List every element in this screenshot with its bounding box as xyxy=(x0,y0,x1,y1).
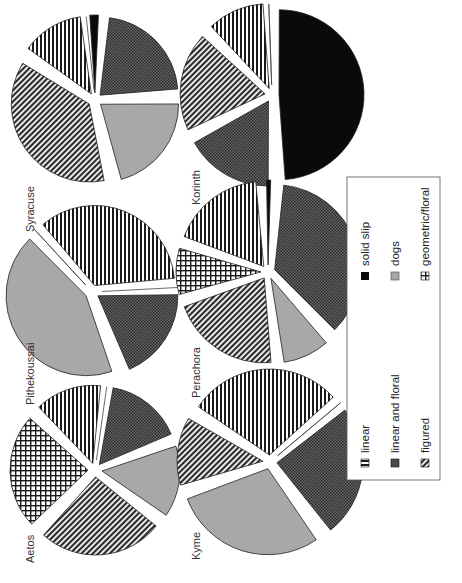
solid-slip-swatch-icon xyxy=(361,272,369,280)
pies-group xyxy=(6,4,364,555)
pie-chart-figure: Syracuse Pithekoussai Aetos Korinth Pera… xyxy=(0,0,462,583)
svg-text:dogs: dogs xyxy=(389,241,401,266)
label-korinth: Korinth xyxy=(190,170,202,205)
slice-solid-slip xyxy=(279,10,364,180)
pie-aetos xyxy=(10,385,180,555)
pie-perachora xyxy=(176,180,360,363)
pie-korinth xyxy=(180,4,364,186)
zero-slice-line xyxy=(269,4,272,85)
svg-text:solid slip: solid slip xyxy=(359,222,371,266)
slice-linear-and-floral xyxy=(98,295,178,370)
dogs-swatch-icon xyxy=(391,272,399,280)
slice-solid-slip xyxy=(90,15,99,93)
slice-linear-and-floral xyxy=(100,18,178,95)
label-kyme: Kyme xyxy=(190,532,202,560)
linear-and-floral-swatch-icon xyxy=(391,459,399,467)
label-aetos: Aetos xyxy=(24,534,36,563)
geometric-floral-swatch-icon xyxy=(421,272,429,280)
legend-item-figured: figured xyxy=(419,418,431,467)
slice-dogs xyxy=(101,104,179,179)
legend-item-linear-and-floral: linear and floral xyxy=(389,374,401,467)
slice-figured xyxy=(11,63,104,182)
pie-kyme xyxy=(177,369,363,555)
legend: linear linear and floral figured solid s… xyxy=(347,177,440,480)
svg-text:figured: figured xyxy=(419,418,431,453)
label-syracuse: Syracuse xyxy=(24,186,36,232)
pie-syracuse xyxy=(11,15,178,182)
label-pithekoussai: Pithekoussai xyxy=(24,343,36,405)
legend-item-dogs: dogs xyxy=(389,241,401,280)
svg-text:linear and floral: linear and floral xyxy=(389,374,401,453)
linear-swatch-icon xyxy=(361,459,369,467)
svg-text:linear: linear xyxy=(359,425,371,453)
svg-text:geometric/floral: geometric/floral xyxy=(419,187,431,266)
label-perachora: Perachora xyxy=(190,346,202,398)
slice-solid-slip xyxy=(267,180,271,265)
legend-item-geometric-floral: geometric/floral xyxy=(419,187,431,280)
zero-slice-line xyxy=(102,287,178,291)
figured-swatch-icon xyxy=(421,459,429,467)
legend-item-linear: linear xyxy=(359,425,371,467)
